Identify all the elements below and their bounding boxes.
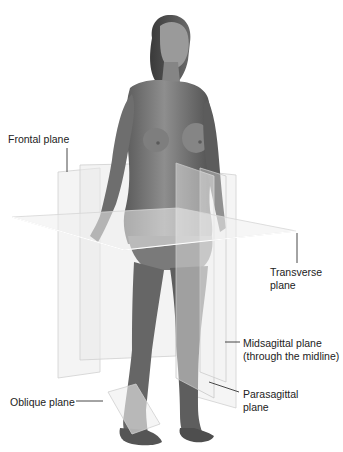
- oblique-plane-label: Oblique plane: [10, 396, 75, 409]
- parasagittal-plane-text-2: plane: [243, 401, 298, 414]
- midsagittal-plane-text-2: (through the midline): [243, 350, 339, 363]
- frontal-plane-label: Frontal plane: [8, 133, 69, 146]
- midsagittal-plane-label: Midsagittal plane (through the midline): [243, 337, 339, 362]
- oblique-plane-text: Oblique plane: [10, 396, 75, 408]
- parasagittal-plane: [200, 168, 226, 382]
- transverse-plane-text-1: Transverse: [270, 266, 322, 279]
- parasagittal-plane-label: Parasagittal plane: [243, 388, 298, 413]
- midsagittal-plane-text-1: Midsagittal plane: [243, 337, 339, 350]
- anatomical-planes-diagram: [0, 0, 343, 452]
- parasagittal-plane-text-1: Parasagittal: [243, 388, 298, 401]
- transverse-plane-label: Transverse plane: [270, 266, 322, 291]
- transverse-plane-text-2: plane: [270, 279, 322, 292]
- frontal-plane-text: Frontal plane: [8, 133, 69, 145]
- oblique-plane: [108, 384, 160, 434]
- transverse-plane: [12, 208, 296, 250]
